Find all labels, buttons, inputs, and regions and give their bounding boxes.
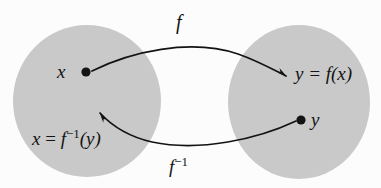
preimage-argument: (y) (80, 128, 101, 149)
inverse-map-exponent: −1 (174, 154, 188, 169)
y-point-dot (296, 115, 305, 124)
function-inverse-diagram: f f−1 x y y = f(x) x = f−1(y) (0, 0, 381, 188)
x-point-label: x (57, 62, 65, 81)
image-expression-label: y = f(x) (295, 64, 352, 83)
diagram-canvas (0, 0, 381, 188)
preimage-equals: = (40, 128, 60, 149)
codomain-set-region (228, 25, 370, 179)
domain-set-region (13, 25, 161, 177)
preimage-exponent: −1 (66, 126, 80, 141)
y-point-label: y (311, 110, 319, 129)
forward-map-label: f (176, 12, 182, 32)
preimage-expression-label: x = f−1(y) (32, 128, 101, 148)
inverse-map-label: f−1 (169, 156, 188, 176)
x-point-dot (81, 67, 90, 76)
